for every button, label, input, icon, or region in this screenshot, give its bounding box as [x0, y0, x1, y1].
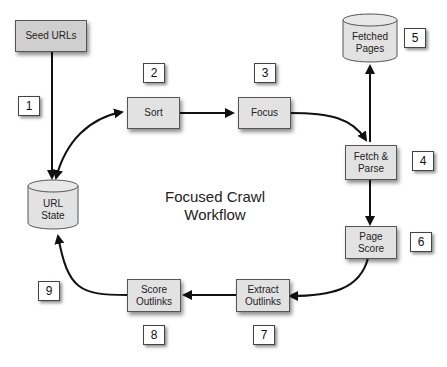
step-badge-1: 1 [18, 96, 40, 116]
store-url-state[interactable]: URL State [28, 184, 78, 229]
step-badge-2: 2 [143, 63, 165, 83]
node-label: Seed URLs [25, 30, 76, 42]
step-badge-9: 9 [38, 281, 60, 301]
node-seed-urls[interactable]: Seed URLs [15, 20, 87, 52]
node-label: Focus [251, 107, 278, 119]
diagram-title: Focused Crawl Workflow [150, 188, 280, 224]
step-badge-5: 5 [404, 28, 426, 48]
node-label: Fetch & Parse [354, 151, 388, 175]
node-page-score[interactable]: Page Score [345, 226, 397, 259]
node-label: Sort [144, 107, 162, 119]
step-badge-6: 6 [410, 232, 432, 252]
store-label: Fetched Pages [352, 31, 388, 55]
edge-score-to-extract [290, 258, 368, 296]
node-label: Extract Outlinks [245, 284, 281, 308]
node-score-outlinks[interactable]: Score Outlinks [127, 279, 181, 312]
step-badge-4: 4 [412, 151, 434, 171]
step-badge-7: 7 [253, 325, 275, 345]
edge-focus-to-fetch [290, 113, 366, 140]
node-extract-outlinks[interactable]: Extract Outlinks [236, 279, 290, 312]
step-badge-3: 3 [254, 63, 276, 83]
step-badge-8: 8 [143, 325, 165, 345]
node-label: Score Outlinks [136, 284, 172, 308]
node-sort[interactable]: Sort [127, 97, 180, 129]
store-fetched-pages[interactable]: Fetched Pages [343, 18, 397, 62]
node-focus[interactable]: Focus [238, 97, 291, 129]
node-fetch-parse[interactable]: Fetch & Parse [345, 145, 397, 180]
edge-scoreout-to-urlstate [58, 236, 127, 295]
store-label: URL State [41, 198, 64, 222]
focused-crawl-diagram: Seed URLs Sort Focus Fetch & Parse Page … [0, 0, 447, 367]
edge-urlstate-sort [56, 112, 122, 178]
node-label: Page Score [358, 231, 384, 255]
